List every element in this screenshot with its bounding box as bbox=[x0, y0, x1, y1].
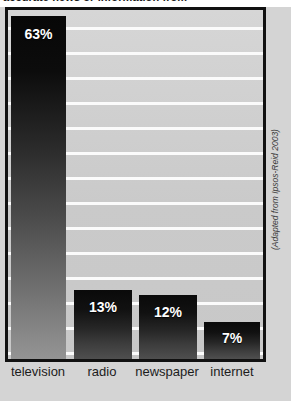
chart-title-strip: accurate news or information from bbox=[0, 0, 291, 7]
figure-container: accurate news or information from 63% bbox=[0, 0, 291, 401]
source-credit: (Adapted from Ipsos-Reid 2003) bbox=[270, 129, 280, 250]
chart-title: accurate news or information from bbox=[3, 0, 187, 3]
category-label-newspaper: newspaper bbox=[133, 364, 201, 379]
bar-value-label: 13% bbox=[74, 299, 132, 315]
plot-area: 63% 13% 12% 7% bbox=[8, 10, 263, 359]
bar-value-label: 12% bbox=[139, 304, 197, 320]
bar-value-label: 63% bbox=[11, 26, 66, 42]
category-label-television: television bbox=[5, 364, 71, 379]
bar-television[interactable]: 63% bbox=[11, 16, 66, 359]
bar-newspaper[interactable]: 12% bbox=[139, 295, 197, 359]
bar-radio[interactable]: 13% bbox=[74, 290, 132, 359]
chart-frame: 63% 13% 12% 7% bbox=[5, 7, 266, 362]
bar-internet[interactable]: 7% bbox=[204, 322, 260, 359]
category-axis: television radio newspaper internet bbox=[5, 364, 266, 388]
category-label-radio: radio bbox=[71, 364, 133, 379]
bar-value-label: 7% bbox=[204, 330, 260, 346]
category-label-internet: internet bbox=[201, 364, 263, 379]
